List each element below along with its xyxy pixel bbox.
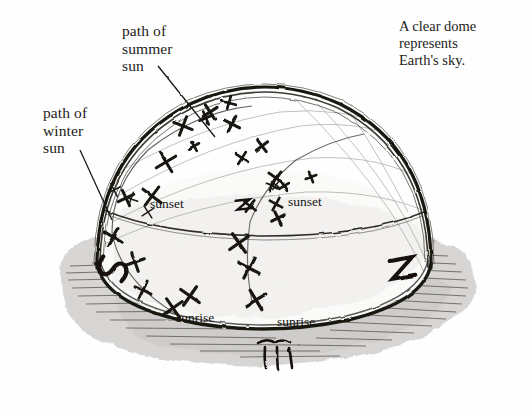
- winter-path-label: path of winter sun: [43, 104, 87, 157]
- sunset-label-right: sunset: [288, 195, 322, 209]
- sunset-label-left: sunset: [150, 197, 184, 211]
- celestial-dome-figure: path of summer sun path of winter sun A …: [0, 0, 532, 417]
- caption-text: A clear dome represents Earth's sky.: [399, 18, 476, 69]
- sunrise-label-left: sunrise: [176, 311, 214, 325]
- summer-path-label: path of summer sun: [122, 22, 173, 75]
- sunrise-label-right: sunrise: [277, 315, 315, 329]
